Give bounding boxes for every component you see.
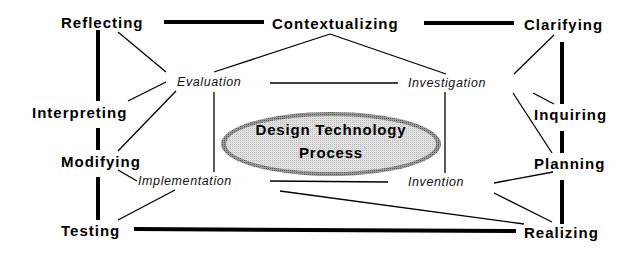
center-title-line1: Design Technology <box>256 121 407 138</box>
node-clarifying: Clarifying <box>524 16 603 33</box>
connector-modifying-evaluation <box>118 91 176 151</box>
connector-contextualizing-investigation <box>330 34 446 74</box>
connector-reflecting-evaluation <box>118 32 166 72</box>
node-reflecting: Reflecting <box>61 14 144 31</box>
center-title-line2: Process <box>299 144 363 161</box>
connector-contextualizing-evaluation <box>214 34 330 72</box>
connector-investigation-inquiring <box>533 93 554 104</box>
connector-testing-realizing <box>134 229 516 231</box>
node-interpreting: Interpreting <box>32 104 127 121</box>
connector-modifying-implementation <box>118 170 137 181</box>
node-evaluation: Evaluation <box>177 75 241 89</box>
connector-invention-realizing <box>494 193 552 222</box>
connector-implementation-invention <box>270 181 388 182</box>
design-technology-process-diagram: Design Technology Process Reflecting Con… <box>0 0 637 259</box>
connector-testing-implementation <box>118 190 175 220</box>
node-modifying: Modifying <box>61 153 141 170</box>
node-realizing: Realizing <box>524 224 599 241</box>
connector-implementation-realizing <box>280 191 524 224</box>
connector-clarifying-investigation <box>514 35 554 74</box>
connector-invention-planning <box>494 172 553 183</box>
node-testing: Testing <box>61 222 120 239</box>
center-ellipse: Design Technology Process <box>221 112 441 176</box>
connector-interpreting-evaluation <box>128 82 166 101</box>
node-planning: Planning <box>534 155 605 172</box>
node-investigation: Investigation <box>408 76 486 90</box>
node-contextualizing: Contextualizing <box>272 15 399 32</box>
node-inquiring: Inquiring <box>534 106 607 123</box>
diagram-canvas: Design Technology Process Reflecting Con… <box>0 0 637 259</box>
connector-investigation-planning <box>513 93 552 153</box>
node-invention: Invention <box>408 175 464 189</box>
node-implementation: Implementation <box>138 174 232 188</box>
